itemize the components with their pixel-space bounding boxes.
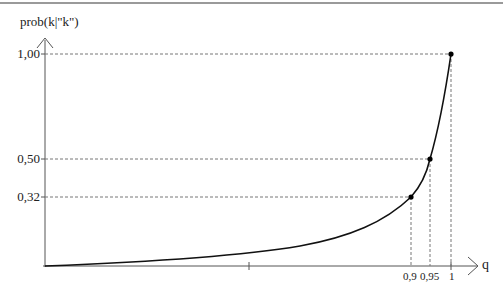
point-q095 xyxy=(427,156,432,161)
x-tick-label-09: 0,9 xyxy=(403,270,417,282)
x-tick-label-1: 1 xyxy=(449,270,455,282)
guide-lines xyxy=(45,54,451,266)
chart-canvas xyxy=(0,0,503,291)
point-q09 xyxy=(408,194,413,199)
y-tick-label-100: 1,00 xyxy=(0,46,40,62)
y-tick-label-032: 0,32 xyxy=(0,189,40,205)
probability-curve xyxy=(45,54,451,266)
y-tick-label-050: 0,50 xyxy=(0,151,40,167)
x-tick-label-095: 0,95 xyxy=(420,270,439,282)
point-q1 xyxy=(448,51,453,56)
x-axis-title: q xyxy=(482,257,489,273)
y-axis-title: prob(k|"k") xyxy=(20,14,79,30)
